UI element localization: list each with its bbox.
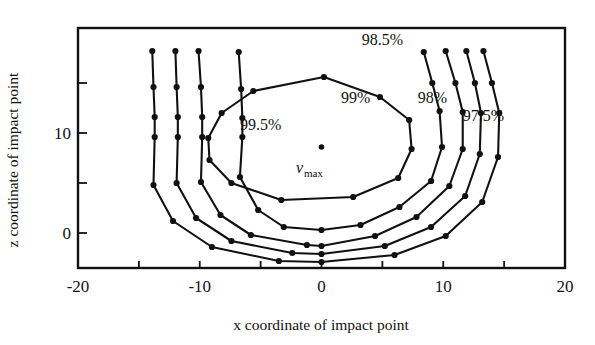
- data-point-marker: [437, 108, 443, 114]
- data-point-marker: [472, 80, 478, 86]
- data-point-marker: [228, 238, 234, 244]
- data-point-marker: [495, 154, 501, 160]
- axis-tick-labels: -20-1001020010: [54, 124, 574, 296]
- x-tick-label: 20: [557, 277, 574, 296]
- data-point-marker: [439, 144, 445, 150]
- data-point-marker: [206, 157, 212, 163]
- x-tick-label: 0: [317, 277, 326, 296]
- data-point-marker: [237, 174, 243, 180]
- data-point-marker: [152, 114, 158, 120]
- data-point-marker: [198, 179, 204, 185]
- data-point-marker: [228, 180, 234, 186]
- data-point-marker: [489, 80, 495, 86]
- contour-label-99: 99%: [341, 89, 370, 106]
- data-point-marker: [350, 194, 356, 200]
- contour-plot: -20-1001020010 99.5%99%98.5%98%97.5% vma…: [0, 0, 595, 345]
- y-axis-title: z coordinate of impact point: [4, 72, 21, 247]
- data-point-marker: [462, 193, 468, 199]
- x-tick-label: -20: [67, 277, 90, 296]
- data-point-marker: [391, 252, 397, 258]
- contour-98: [175, 51, 481, 254]
- data-point-marker: [174, 180, 180, 186]
- vmax-point-marker: [319, 144, 325, 150]
- data-point-marker: [175, 134, 181, 140]
- data-point-marker: [199, 114, 205, 120]
- contour-lines: [152, 51, 499, 262]
- contour-label-98: 98%: [418, 89, 447, 106]
- data-point-marker: [477, 151, 483, 157]
- data-point-marker: [428, 178, 434, 184]
- data-point-marker: [150, 84, 156, 90]
- data-point-marker: [209, 244, 215, 250]
- data-point-marker: [318, 243, 324, 249]
- data-point-marker: [318, 227, 324, 233]
- data-point-marker: [372, 233, 378, 239]
- data-point-marker: [321, 74, 327, 80]
- x-tick-label: -10: [188, 277, 211, 296]
- data-point-marker: [382, 243, 388, 249]
- data-point-marker: [195, 48, 201, 54]
- data-point-marker: [318, 259, 324, 265]
- data-point-marker: [396, 204, 402, 210]
- data-point-marker: [428, 224, 434, 230]
- contour-label-99-5: 99.5%: [240, 116, 281, 133]
- data-point-marker: [289, 250, 295, 256]
- data-point-marker: [236, 49, 242, 55]
- data-point-marker: [480, 48, 486, 54]
- data-point-marker: [199, 134, 205, 140]
- data-point-marker: [175, 114, 181, 120]
- data-point-marker: [357, 222, 363, 228]
- contour-labels: 99.5%99%98.5%98%97.5%: [240, 31, 504, 133]
- data-point-marker: [174, 84, 180, 90]
- y-tick-label: 0: [63, 224, 72, 243]
- data-point-marker: [452, 80, 458, 86]
- data-point-marker: [205, 135, 211, 141]
- vmax-label: vmax: [296, 159, 324, 179]
- data-point-marker: [413, 214, 419, 220]
- data-point-marker: [446, 183, 452, 189]
- y-tick-label: 10: [54, 124, 71, 143]
- data-point-marker: [219, 110, 225, 116]
- data-point-marker: [406, 117, 412, 123]
- vmax-symbol: v: [296, 159, 304, 176]
- data-point-marker: [429, 80, 435, 86]
- data-point-marker: [278, 197, 284, 203]
- data-point-marker: [217, 212, 223, 218]
- data-point-marker: [239, 134, 245, 140]
- data-point-marker: [443, 233, 449, 239]
- x-tick-label: 10: [435, 277, 452, 296]
- figure-root: -20-1001020010 99.5%99%98.5%98%97.5% vma…: [0, 0, 595, 345]
- data-point-marker: [460, 146, 466, 152]
- annotations: vmax: [296, 144, 324, 179]
- vmax-subscript: max: [304, 167, 323, 179]
- data-point-marker: [443, 48, 449, 54]
- data-point-marker: [238, 86, 244, 92]
- data-point-marker: [170, 218, 176, 224]
- data-point-marker: [248, 232, 254, 238]
- data-point-marker: [479, 199, 485, 205]
- data-point-marker: [193, 215, 199, 221]
- data-point-marker: [408, 146, 414, 152]
- data-point-marker: [149, 48, 155, 54]
- contour-label-97-5: 97.5%: [463, 107, 504, 124]
- data-point-marker: [318, 251, 324, 257]
- data-point-marker: [395, 175, 401, 181]
- contour-label-98-5: 98.5%: [362, 31, 403, 48]
- data-point-marker: [276, 258, 282, 264]
- data-point-marker: [304, 242, 310, 248]
- data-point-marker: [377, 94, 383, 100]
- data-point-marker: [152, 134, 158, 140]
- data-point-marker: [421, 49, 427, 55]
- data-point-marker: [463, 48, 469, 54]
- data-point-marker: [281, 224, 287, 230]
- data-point-marker: [150, 182, 156, 188]
- data-point-marker: [255, 207, 261, 213]
- data-point-marker: [172, 48, 178, 54]
- data-point-marker: [198, 84, 204, 90]
- x-axis-title: x coordinate of impact point: [233, 316, 409, 333]
- data-point-marker: [250, 88, 256, 94]
